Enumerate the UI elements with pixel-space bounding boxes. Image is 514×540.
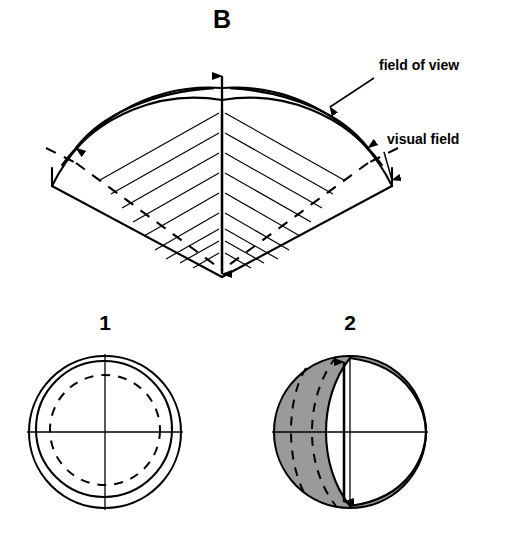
fan-diagram (46, 76, 398, 277)
annotation-visual-field: visual field (384, 131, 459, 180)
field-of-view-label: field of view (379, 57, 459, 73)
visual-field-label: visual field (387, 131, 459, 147)
figure-canvas: B (0, 0, 514, 540)
annotation-field-of-view: field of view (330, 57, 459, 107)
circle-diagram-1: 1 (27, 311, 183, 510)
fan-dashed-left-edge (76, 163, 222, 270)
panel-title: B (213, 5, 231, 33)
circle-2-number: 2 (344, 311, 356, 334)
circle-1-inner-ring (36, 361, 172, 497)
field-of-view-leader (330, 78, 374, 107)
visual-field-leader (384, 152, 392, 180)
circle-diagram-2: 2 (272, 311, 428, 508)
fan-dashed-right-edge (222, 163, 368, 270)
figure-root: B (0, 0, 514, 540)
circle-1-number: 1 (99, 311, 111, 334)
